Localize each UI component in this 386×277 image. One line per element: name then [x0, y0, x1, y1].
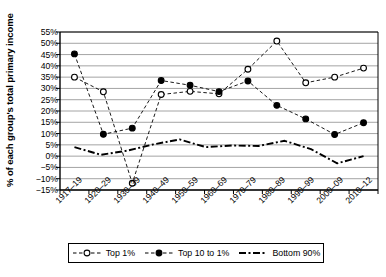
- data-point: [129, 125, 135, 131]
- legend-label: Top 1%: [105, 249, 135, 258]
- data-point: [100, 89, 106, 95]
- data-point: [361, 120, 367, 126]
- data-point: [187, 88, 193, 94]
- legend-swatch-icon: [238, 248, 268, 258]
- chart-figure: % of each group's total primary income 5…: [0, 0, 386, 277]
- data-point: [187, 82, 193, 88]
- data-point: [361, 65, 367, 71]
- data-point: [100, 131, 106, 137]
- legend-item-top-10-to-1[interactable]: Top 10 to 1%: [144, 248, 229, 258]
- data-point: [245, 78, 251, 84]
- chart-legend: Top 1%Top 10 to 1%Bottom 90%: [68, 243, 324, 263]
- series-line-top-1: [74, 41, 363, 183]
- plot-area: [0, 0, 386, 277]
- legend-swatch-icon: [144, 248, 174, 258]
- data-point: [274, 102, 280, 108]
- data-point: [216, 89, 222, 95]
- data-point: [245, 66, 251, 72]
- data-point: [303, 80, 309, 86]
- legend-swatch-icon: [72, 248, 102, 258]
- data-point: [158, 78, 164, 84]
- series-line-bottom-90: [74, 139, 363, 163]
- legend-label: Top 10 to 1%: [177, 249, 229, 258]
- data-point: [158, 92, 164, 98]
- data-point: [274, 38, 280, 44]
- legend-item-bottom-90[interactable]: Bottom 90%: [238, 248, 320, 258]
- legend-label: Bottom 90%: [271, 249, 320, 258]
- data-point: [72, 51, 78, 57]
- legend-item-top-1[interactable]: Top 1%: [72, 248, 135, 258]
- data-point: [129, 180, 135, 186]
- data-point: [332, 74, 338, 80]
- data-point: [332, 132, 338, 138]
- data-point: [72, 74, 78, 80]
- data-point: [303, 116, 309, 122]
